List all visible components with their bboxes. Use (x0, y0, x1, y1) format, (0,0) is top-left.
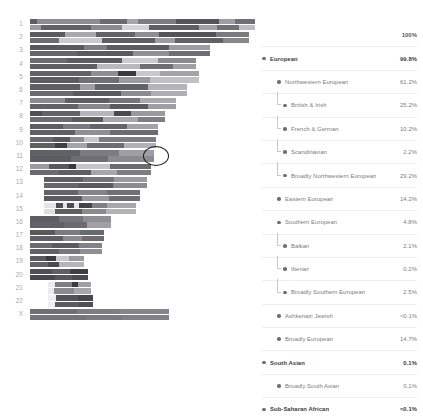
ancestry-segment[interactable] (30, 25, 41, 30)
ancestry-segment[interactable] (30, 236, 63, 241)
ancestry-segment[interactable] (119, 150, 154, 155)
ancestry-segment[interactable] (87, 143, 125, 148)
ancestry-segment[interactable] (52, 243, 79, 248)
chromosome-row[interactable]: X (0, 308, 255, 321)
ancestry-segment[interactable] (55, 209, 83, 214)
ancestry-segment[interactable] (30, 91, 73, 96)
ancestry-segment[interactable] (79, 77, 120, 82)
haplotype-bar-paternal[interactable] (30, 143, 156, 148)
ancestry-segment[interactable] (30, 222, 64, 227)
ancestry-segment[interactable] (114, 111, 132, 116)
ancestry-segment[interactable] (106, 209, 136, 214)
chromosome-haplotype-pair[interactable] (30, 84, 255, 97)
ancestry-segment[interactable] (74, 288, 91, 293)
ancestry-segment[interactable] (110, 130, 159, 135)
ancestry-segment[interactable] (110, 164, 151, 169)
ancestry-segment[interactable] (73, 91, 122, 96)
ancestry-segment[interactable] (82, 236, 104, 241)
haplotype-bar-paternal[interactable] (48, 302, 93, 307)
ancestry-segment[interactable] (30, 170, 59, 175)
haplotype-bar-maternal[interactable] (48, 282, 91, 287)
haplotype-bar-paternal[interactable] (30, 249, 102, 254)
ancestry-segment[interactable] (127, 124, 158, 129)
ancestry-segment[interactable] (160, 71, 199, 76)
haplotype-bar-maternal[interactable] (48, 295, 93, 300)
haplotype-bar-paternal[interactable] (30, 156, 154, 161)
haplotype-bar-paternal[interactable] (30, 38, 249, 43)
ancestry-segment[interactable] (30, 71, 91, 76)
chromosome-row[interactable]: 15 (0, 203, 255, 216)
ancestry-segment[interactable] (30, 275, 55, 280)
ancestry-segment[interactable] (138, 19, 176, 24)
chromosome-row[interactable]: 20 (0, 269, 255, 282)
ancestry-segment[interactable] (135, 32, 159, 37)
ancestry-segment[interactable] (78, 282, 91, 287)
haplotype-bar-maternal[interactable] (30, 256, 84, 261)
ancestry-segment[interactable] (30, 58, 67, 63)
ancestry-segment[interactable] (80, 150, 120, 155)
ancestry-segment[interactable] (223, 38, 249, 43)
legend-row[interactable]: Scandinavian2.2% (262, 141, 417, 164)
ancestry-segment[interactable] (92, 203, 107, 208)
ancestry-segment[interactable] (30, 249, 59, 254)
ancestry-segment[interactable] (70, 269, 89, 274)
ancestry-segment[interactable] (52, 269, 70, 274)
haplotype-bar-paternal[interactable] (30, 222, 111, 227)
chromosome-row[interactable]: 3 (0, 44, 255, 57)
ancestry-segment[interactable] (217, 25, 240, 30)
ancestry-segment[interactable] (30, 262, 48, 267)
legend-row[interactable]: Eastern European14.2% (262, 188, 417, 211)
chromosome-row[interactable]: 12 (0, 163, 255, 176)
ancestry-segment[interactable] (150, 77, 199, 82)
ancestry-segment[interactable] (119, 309, 169, 314)
ancestry-segment[interactable] (75, 130, 110, 135)
haplotype-bar-maternal[interactable] (44, 203, 136, 208)
chromosome-row[interactable]: 21 (0, 282, 255, 295)
ancestry-segment[interactable] (110, 104, 148, 109)
ancestry-segment[interactable] (99, 137, 156, 142)
ancestry-segment[interactable] (175, 38, 223, 43)
ancestry-segment[interactable] (80, 230, 105, 235)
haplotype-bar-paternal[interactable] (30, 315, 170, 320)
ancestry-segment[interactable] (91, 71, 118, 76)
haplotype-bar-paternal[interactable] (44, 209, 136, 214)
ancestry-segment[interactable] (56, 256, 69, 261)
legend-row[interactable]: Broadly South Asian0.1% (262, 375, 417, 398)
ancestry-segment[interactable] (65, 32, 96, 37)
haplotype-bar-maternal[interactable] (30, 71, 199, 76)
legend-row[interactable]: Northwestern European61.2% (262, 71, 417, 94)
ancestry-segment[interactable] (127, 19, 138, 24)
chromosome-haplotype-pair[interactable] (30, 150, 255, 163)
haplotype-bar-maternal[interactable] (30, 230, 104, 235)
chromosome-row[interactable]: 5 (0, 71, 255, 84)
haplotype-bar-maternal[interactable] (30, 111, 165, 116)
haplotype-bar-maternal[interactable] (30, 45, 210, 50)
ancestry-segment[interactable] (148, 104, 176, 109)
ancestry-segment[interactable] (131, 111, 165, 116)
ancestry-segment[interactable] (79, 203, 92, 208)
ancestry-segment[interactable] (102, 38, 155, 43)
legend-row[interactable]: Balkan2.1% (262, 235, 417, 258)
ancestry-segment[interactable] (90, 124, 127, 129)
haplotype-bar-maternal[interactable] (30, 164, 152, 169)
ancestry-segment[interactable] (64, 222, 87, 227)
ancestry-segment[interactable] (91, 170, 118, 175)
ancestry-segment[interactable] (169, 51, 210, 56)
ancestry-segment[interactable] (49, 164, 68, 169)
ancestry-segment[interactable] (53, 137, 71, 142)
ancestry-segment[interactable] (55, 230, 80, 235)
chromosome-row[interactable]: 2 (0, 31, 255, 44)
ancestry-segment[interactable] (44, 209, 55, 214)
haplotype-bar-maternal[interactable] (30, 243, 102, 248)
chromosome-row[interactable]: 9 (0, 124, 255, 137)
ancestry-segment[interactable] (30, 216, 59, 221)
ancestry-segment[interactable] (97, 64, 140, 69)
ancestry-segment[interactable] (235, 19, 255, 24)
ancestry-segment[interactable] (71, 156, 108, 161)
haplotype-bar-paternal[interactable] (30, 91, 188, 96)
ancestry-segment[interactable] (48, 262, 59, 267)
ancestry-segment[interactable] (59, 249, 81, 254)
ancestry-segment[interactable] (176, 19, 219, 24)
legend-row[interactable]: Broadly Southern European2.5% (262, 281, 417, 304)
ancestry-segment[interactable] (77, 309, 119, 314)
